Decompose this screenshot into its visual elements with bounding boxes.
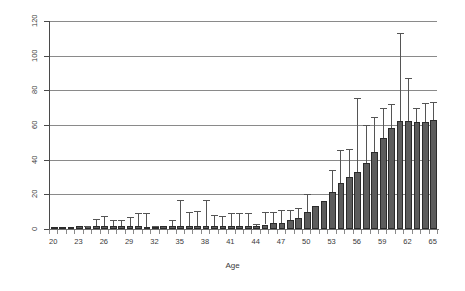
error-bar-age-60 xyxy=(391,104,392,128)
error-bar-age-41 xyxy=(231,213,232,227)
x-tick xyxy=(226,230,227,234)
bar-age-60 xyxy=(388,128,395,229)
error-bar-age-29 xyxy=(130,217,131,226)
bar-slot xyxy=(269,21,277,229)
x-tick-label-20: 20 xyxy=(49,237,57,246)
error-bar-age-62 xyxy=(408,78,409,120)
error-bar-age-40 xyxy=(222,216,223,226)
bar-chart: 020406080100120 202326293235384144475053… xyxy=(0,0,465,291)
bar-age-49 xyxy=(295,218,302,229)
x-tick xyxy=(437,230,438,234)
bar-age-51 xyxy=(312,206,319,229)
x-tick xyxy=(319,230,320,234)
error-bar-age-53 xyxy=(332,170,333,192)
error-cap-age-26 xyxy=(101,216,108,217)
bar-slot xyxy=(252,21,260,229)
bar-slot xyxy=(354,21,362,229)
bar-slot xyxy=(160,21,168,229)
error-cap-age-38 xyxy=(203,200,210,201)
y-tick-label-80: 80 xyxy=(30,80,40,100)
bar-age-62 xyxy=(405,121,412,229)
bar-slot xyxy=(311,21,319,229)
bar-age-50 xyxy=(304,212,311,229)
error-cap-age-59 xyxy=(380,108,387,109)
error-bar-age-57 xyxy=(366,125,367,163)
bar-slot xyxy=(362,21,370,229)
error-cap-age-32 xyxy=(152,226,159,227)
bar-slot xyxy=(371,21,379,229)
x-tick xyxy=(167,230,168,234)
y-tick-label-100: 100 xyxy=(30,46,40,66)
x-tick xyxy=(378,230,379,234)
x-tick xyxy=(176,230,177,234)
bar-slot xyxy=(227,21,235,229)
x-tick xyxy=(218,230,219,234)
x-tick xyxy=(260,230,261,234)
x-tick xyxy=(83,230,84,234)
error-cap-age-60 xyxy=(388,104,395,105)
x-tick xyxy=(310,230,311,234)
error-cap-age-34 xyxy=(169,220,176,221)
x-tick xyxy=(403,230,404,234)
error-cap-age-55 xyxy=(346,149,353,150)
error-bar-age-26 xyxy=(104,216,105,226)
x-tick-label-26: 26 xyxy=(100,237,108,246)
x-tick xyxy=(116,230,117,234)
y-tick-label-20: 20 xyxy=(30,184,40,204)
error-cap-age-64 xyxy=(422,103,429,104)
error-bar-age-56 xyxy=(357,98,358,172)
x-axis-title: Age xyxy=(0,261,465,270)
x-tick xyxy=(277,230,278,234)
error-bar-age-58 xyxy=(374,117,375,152)
bar-slot xyxy=(50,21,58,229)
x-tick xyxy=(150,230,151,234)
bar-slot xyxy=(244,21,252,229)
error-bar-age-45 xyxy=(265,212,266,225)
bar-age-53 xyxy=(329,192,336,229)
error-cap-age-28 xyxy=(118,220,125,221)
error-cap-age-31 xyxy=(143,213,150,214)
x-tick xyxy=(125,230,126,234)
x-tick xyxy=(184,230,185,234)
bar-slot xyxy=(143,21,151,229)
bar-age-64 xyxy=(422,122,429,229)
bar-slot xyxy=(328,21,336,229)
error-bar-age-55 xyxy=(349,149,350,177)
error-bar-age-48 xyxy=(290,210,291,220)
bar-slot xyxy=(75,21,83,229)
x-tick xyxy=(386,230,387,234)
error-bar-age-38 xyxy=(206,200,207,225)
x-tick xyxy=(100,230,101,234)
bar-age-55 xyxy=(346,177,353,229)
bar-slot xyxy=(430,21,438,229)
bar-age-48 xyxy=(287,220,294,229)
x-tick-label-23: 23 xyxy=(74,237,82,246)
x-tick xyxy=(201,230,202,234)
bar-slot xyxy=(261,21,269,229)
error-cap-age-50 xyxy=(304,194,311,195)
bar-slot xyxy=(67,21,75,229)
error-cap-age-53 xyxy=(329,170,336,171)
x-tick xyxy=(192,230,193,234)
error-cap-age-54 xyxy=(337,150,344,151)
x-tick xyxy=(108,230,109,234)
error-bar-age-37 xyxy=(197,211,198,226)
x-tick xyxy=(159,230,160,234)
x-tick xyxy=(302,230,303,234)
error-cap-age-44 xyxy=(253,224,260,225)
y-tick-label-60: 60 xyxy=(30,115,40,135)
x-axis-labels: 20232629323538414447505356596265 xyxy=(49,237,437,249)
error-bar-age-61 xyxy=(400,33,401,121)
x-tick xyxy=(268,230,269,234)
bar-slot xyxy=(126,21,134,229)
x-tick-label-56: 56 xyxy=(353,237,361,246)
error-bar-age-46 xyxy=(273,212,274,224)
error-bar-age-42 xyxy=(239,213,240,226)
bar-slot xyxy=(151,21,159,229)
error-cap-age-43 xyxy=(245,213,252,214)
error-bar-age-25 xyxy=(96,219,97,226)
bar-slot xyxy=(421,21,429,229)
bar-age-52 xyxy=(321,201,328,229)
x-tick xyxy=(49,230,50,234)
bar-slot xyxy=(101,21,109,229)
